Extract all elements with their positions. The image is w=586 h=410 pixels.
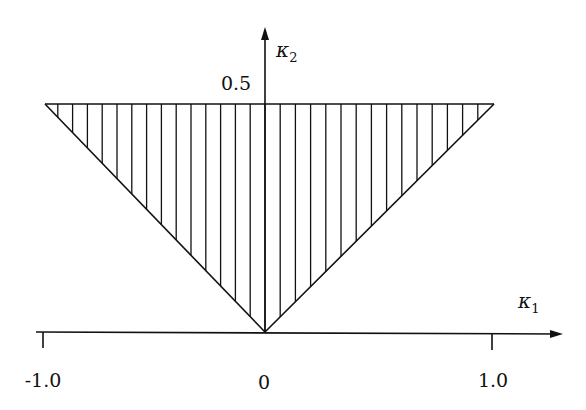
x-axis-label: κ1	[517, 289, 539, 316]
hatch-lines	[58, 104, 478, 332]
y-tick-label-half: 0.5	[221, 72, 251, 94]
x-axis	[36, 332, 556, 334]
x-axis-arrow-icon	[550, 330, 563, 338]
y-axis-label: κ2	[275, 38, 297, 65]
x-tick-label-zero: 0	[258, 371, 270, 393]
x-tick-label-minus-one: -1.0	[25, 369, 62, 391]
triangle-left-edge	[45, 104, 265, 332]
diagram-canvas: -1.0 0 1.0 0.5 κ2 κ1	[0, 0, 586, 410]
triangle-right-edge	[265, 104, 494, 332]
x-tick-label-plus-one: 1.0	[478, 369, 508, 391]
y-axis-arrow-icon	[261, 27, 269, 40]
